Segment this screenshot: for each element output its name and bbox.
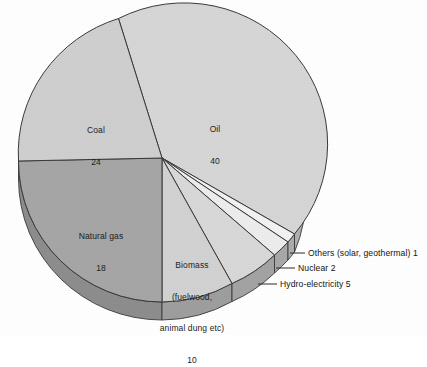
slice-label-oil-value: 40 bbox=[192, 156, 238, 167]
slice-label-oil-name: Oil bbox=[192, 124, 238, 135]
slice-label-coal: Coal 24 bbox=[68, 104, 124, 188]
slice-label-natural-gas-name: Natural gas bbox=[55, 231, 147, 242]
slice-label-biomass-detail-2: animal dung etc) bbox=[146, 323, 238, 334]
slice-label-biomass-detail-1: (fuelwood, bbox=[146, 292, 238, 303]
callout-label-hydro: Hydro-electricity 5 bbox=[280, 279, 351, 289]
slice-label-coal-value: 24 bbox=[68, 157, 124, 168]
slice-label-natural-gas: Natural gas 18 bbox=[55, 210, 147, 294]
slice-label-biomass: Biomass (fuelwood, animal dung etc) 10 bbox=[146, 239, 238, 367]
slice-label-coal-name: Coal bbox=[68, 125, 124, 136]
slice-label-biomass-value: 10 bbox=[146, 355, 238, 366]
slice-label-oil: Oil 40 bbox=[192, 103, 238, 187]
slice-label-biomass-name: Biomass bbox=[146, 260, 238, 271]
callout-label-others: Others (solar, geothermal) 1 bbox=[308, 248, 418, 258]
slice-label-natural-gas-value: 18 bbox=[55, 263, 147, 274]
callout-label-nuclear: Nuclear 2 bbox=[298, 263, 336, 273]
